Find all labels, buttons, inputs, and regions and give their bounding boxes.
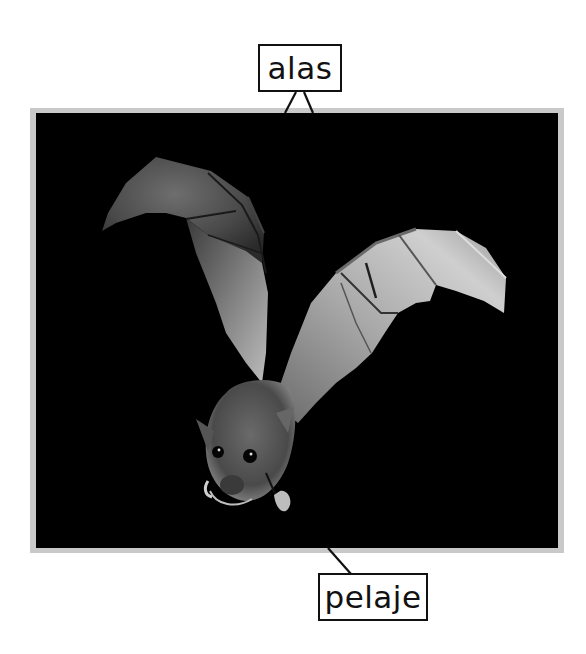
bat-photo	[36, 113, 558, 548]
left-wing	[102, 157, 268, 383]
right-wing	[274, 229, 506, 423]
bat-illustration	[36, 113, 558, 548]
label-pelaje-text: pelaje	[324, 579, 421, 615]
bat-body	[196, 380, 295, 511]
photo-frame	[30, 108, 564, 553]
label-pelaje: pelaje	[318, 573, 428, 621]
label-alas: alas	[258, 44, 342, 92]
label-alas-text: alas	[268, 50, 333, 86]
